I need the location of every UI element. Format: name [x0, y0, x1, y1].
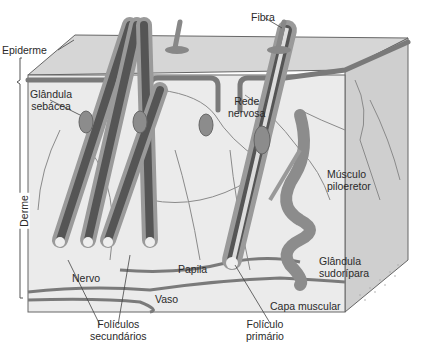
- layer-brackets: [17, 58, 23, 298]
- label-foliculos-line1: Folículos: [90, 318, 147, 330]
- label-vaso: Vaso: [155, 293, 178, 305]
- label-papila: Papila: [178, 263, 207, 275]
- label-sudoripara-line1: Glândula: [319, 255, 369, 267]
- label-fibra: Fibra: [251, 11, 275, 23]
- label-foliculos-secundarios: Folículos secundários: [90, 318, 147, 342]
- label-glandula-sebacea-line2: sebácea: [30, 100, 72, 112]
- label-epiderme: Epiderme: [2, 44, 47, 56]
- label-glandula-sebacea: Glândula sebácea: [30, 88, 72, 112]
- label-sudoripara-line2: sudorípara: [319, 267, 369, 279]
- label-musculo-line2: piloeretor: [327, 180, 371, 192]
- label-musculo-line1: Músculo: [327, 168, 371, 180]
- label-nervo: Nervo: [72, 272, 100, 284]
- label-capa-muscular: Capa muscular: [270, 300, 341, 312]
- label-derme: Derme: [18, 193, 30, 229]
- label-foliculo-primario: Folículo primário: [246, 318, 284, 342]
- label-glandula-sebacea-line1: Glândula: [30, 88, 72, 100]
- label-musculo-piloeretor: Músculo piloeretor: [327, 168, 371, 192]
- label-foliculos-line2: secundários: [90, 330, 147, 342]
- label-rede-nervosa-line2: nervosa: [228, 107, 265, 119]
- label-rede-nervosa: Rede nervosa: [228, 95, 265, 119]
- label-glandula-sudoripara: Glândula sudorípara: [319, 255, 369, 279]
- label-rede-nervosa-line1: Rede: [228, 95, 265, 107]
- label-foliculo-line2: primário: [246, 330, 284, 342]
- label-foliculo-line1: Folículo: [246, 318, 284, 330]
